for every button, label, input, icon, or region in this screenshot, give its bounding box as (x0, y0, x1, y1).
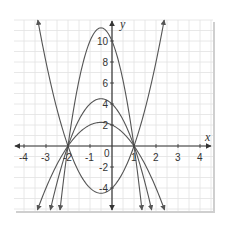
x-axis-label: x (204, 130, 211, 144)
x-tick-label: 2 (153, 152, 159, 163)
y-tick-label: 10 (97, 36, 109, 47)
plot-background (14, 20, 213, 211)
x-tick-label: 4 (197, 152, 203, 163)
x-tick-label: -4 (19, 152, 28, 163)
y-tick-label: 4 (102, 99, 108, 110)
x-tick-label: 1 (131, 152, 137, 163)
x-tick-label: -1 (85, 152, 94, 163)
graph: -4-3-2-11234-4-2246810 x y 0 (0, 0, 229, 231)
y-tick-label: -2 (99, 162, 108, 173)
y-tick-label: 2 (102, 120, 108, 131)
x-tick-label: -3 (41, 152, 50, 163)
y-axis-label: y (119, 17, 126, 31)
x-tick-label: 3 (175, 152, 181, 163)
y-tick-label: -4 (99, 183, 108, 194)
y-tick-label: 8 (102, 57, 108, 68)
origin-label: 0 (104, 148, 110, 159)
y-tick-label: 6 (102, 78, 108, 89)
x-tick-label: -2 (63, 152, 72, 163)
